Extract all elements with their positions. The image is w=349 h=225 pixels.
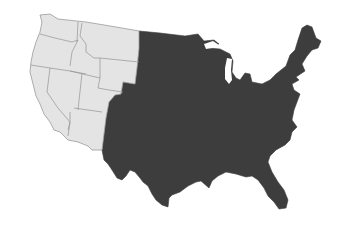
us-map [0,0,349,225]
lake-huron [234,52,249,64]
us-map-svg [0,0,349,225]
